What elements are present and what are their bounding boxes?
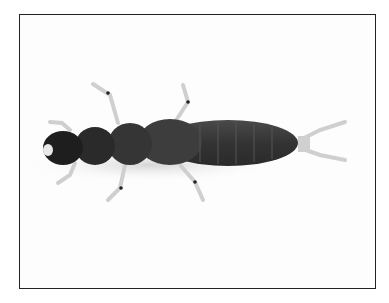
larva-body	[43, 119, 310, 166]
larva-photo	[0, 0, 389, 303]
